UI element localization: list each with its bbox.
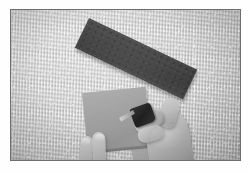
left-fingernail-index bbox=[81, 138, 90, 145]
photograph bbox=[11, 10, 240, 160]
left-fingernail-middle bbox=[95, 134, 104, 141]
left-hand bbox=[73, 130, 121, 160]
screenshot-root bbox=[0, 0, 250, 174]
photo-white-border bbox=[0, 0, 250, 174]
right-hand bbox=[128, 90, 200, 160]
